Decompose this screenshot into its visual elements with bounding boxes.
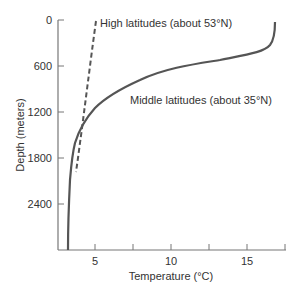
high-latitude-curve xyxy=(76,21,96,172)
x-tick-label: 15 xyxy=(241,255,253,267)
y-tick-label: 2400 xyxy=(28,198,52,210)
y-axis-title: Depth (meters) xyxy=(14,98,26,171)
y-tick-label: 600 xyxy=(34,60,52,72)
x-tick-label: 10 xyxy=(165,255,177,267)
annotation-high-latitudes: High latitudes (about 53°N) xyxy=(100,17,232,29)
y-axis xyxy=(58,20,64,250)
y-tick-label: 1200 xyxy=(28,106,52,118)
temperature-depth-chart: 0 600 1200 1800 2400 5 10 15 Temperature… xyxy=(0,0,299,286)
x-tick-label: 5 xyxy=(92,255,98,267)
y-tick-label: 1800 xyxy=(28,152,52,164)
x-axis xyxy=(58,244,286,250)
annotation-middle-latitudes: Middle latitudes (about 35°N) xyxy=(130,94,272,106)
y-tick-label: 0 xyxy=(46,14,52,26)
middle-latitude-curve xyxy=(68,22,275,250)
x-axis-title: Temperature (°C) xyxy=(129,270,213,282)
